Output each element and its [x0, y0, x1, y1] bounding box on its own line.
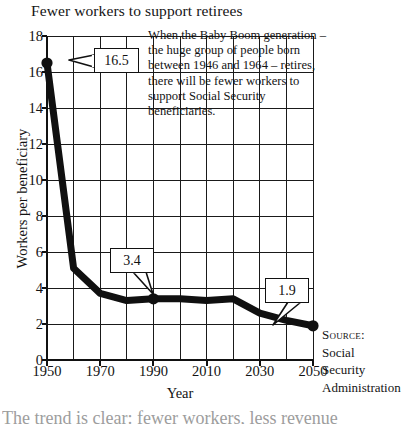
x-tick-1990: 1990	[129, 364, 177, 379]
y-tick-2: 2	[19, 317, 43, 332]
source-note: Source: Social Security Administration	[322, 326, 410, 396]
chart-title: Fewer workers to support retirees	[31, 2, 243, 20]
source-label: Source:	[322, 327, 365, 342]
x-tick-1970: 1970	[76, 364, 124, 379]
callout-3-4-label: 3.4	[110, 248, 154, 273]
data-point-1950	[41, 57, 52, 68]
x-tick-2030: 2030	[236, 364, 284, 379]
x-tick-2010: 2010	[183, 364, 231, 379]
source-line-1: Social	[322, 345, 355, 360]
callout-16-5: 16.5	[69, 48, 179, 82]
y-axis-title: Workers per beneficiary	[14, 99, 31, 299]
callout-3-4: 3.4	[110, 248, 180, 296]
source-line-2: Security	[322, 362, 365, 377]
y-tick-18: 18	[19, 29, 43, 44]
callout-16-5-label: 16.5	[94, 48, 139, 73]
x-axis-title: Year	[47, 385, 313, 402]
callout-1-9-label: 1.9	[265, 278, 309, 303]
page-bleed-text: The trend is clear: fewer workers, less …	[2, 408, 408, 424]
chart-figure: Fewer workers to support retirees	[0, 0, 410, 424]
x-tick-1950: 1950	[23, 364, 71, 379]
source-line-3: Administration	[322, 380, 401, 395]
x-axis-tick-labels: 1950 1970 1990 2010 2030 2050	[47, 364, 313, 384]
y-tick-16: 16	[19, 65, 43, 80]
callout-1-9: 1.9	[255, 278, 335, 328]
